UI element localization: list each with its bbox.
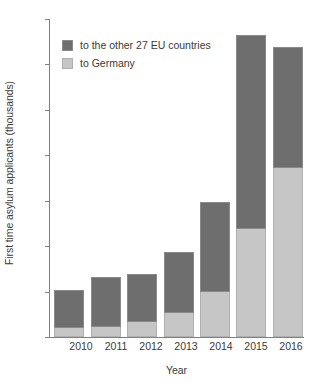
legend-label-eu-other: to the other 27 EU countries (80, 40, 211, 51)
bar-segment-germany-2012 (127, 322, 157, 337)
bar-2013 (164, 252, 194, 337)
y-axis-title: First time asylum applicants (thousands) (2, 8, 16, 338)
y-axis-line (49, 19, 50, 337)
bar-segment-germany-2016 (273, 168, 303, 337)
x-axis-line (49, 337, 304, 338)
bar-segment-germany-2015 (236, 229, 266, 337)
bar-segment-eu-other-2016 (273, 47, 303, 167)
y-tick-200 (45, 292, 49, 293)
bar-2012 (127, 274, 157, 337)
x-axis-title: Year (49, 364, 304, 376)
bar-segment-eu-other-2010 (54, 290, 84, 327)
bar-2015 (236, 35, 266, 337)
bar-segment-eu-other-2011 (91, 277, 121, 327)
bar-segment-eu-other-2014 (200, 202, 230, 292)
y-tick-600 (45, 201, 49, 202)
legend-swatch-icon-eu-other (62, 40, 73, 51)
bar-2016 (273, 47, 303, 337)
x-tick-label-2013: 2013 (166, 341, 206, 352)
x-tick-label-2014: 2014 (201, 341, 241, 352)
asylum-applicants-bar-chart: First time asylum applicants (thousands)… (0, 0, 309, 384)
x-tick-label-2012: 2012 (131, 341, 171, 352)
legend-item-germany: to Germany (62, 56, 211, 71)
legend-label-germany: to Germany (80, 58, 135, 69)
y-tick-400 (45, 246, 49, 247)
x-tick-label-2016: 2016 (271, 341, 309, 352)
x-tick-label-2010: 2010 (61, 341, 101, 352)
bar-2010 (54, 290, 84, 337)
y-tick-1000 (45, 110, 49, 111)
x-tick-label-2011: 2011 (96, 341, 136, 352)
y-tick-1400 (45, 19, 49, 20)
bar-segment-eu-other-2013 (164, 252, 194, 313)
x-tick-label-2015: 2015 (236, 341, 276, 352)
legend-item-eu-other: to the other 27 EU countries (62, 38, 211, 53)
bar-2011 (91, 277, 121, 337)
y-tick-800 (45, 155, 49, 156)
bar-segment-eu-other-2012 (127, 274, 157, 323)
bar-segment-eu-other-2015 (236, 35, 266, 229)
y-tick-0 (45, 337, 49, 338)
chart-legend: to the other 27 EU countries to Germany (62, 38, 211, 74)
y-tick-1200 (45, 64, 49, 65)
bar-segment-germany-2014 (200, 292, 230, 337)
bar-segment-germany-2011 (91, 327, 121, 337)
bar-2014 (200, 202, 230, 337)
legend-swatch-icon-germany (62, 58, 73, 69)
bar-segment-germany-2010 (54, 328, 84, 337)
bar-segment-germany-2013 (164, 313, 194, 337)
